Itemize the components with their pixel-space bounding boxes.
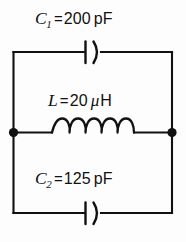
c1-value: 200 bbox=[64, 10, 91, 27]
c1-equals: = bbox=[54, 10, 63, 27]
circuit-schematic-drawing bbox=[0, 0, 186, 242]
c2-symbol: C bbox=[35, 168, 47, 188]
c1-symbol: C bbox=[35, 8, 47, 28]
c1-subscript: 1 bbox=[46, 18, 52, 30]
node-dot-left bbox=[9, 128, 18, 137]
inductor-l-symbol bbox=[52, 119, 134, 133]
label-inductor-l: L=20μH bbox=[48, 92, 112, 110]
capacitor-c1-symbol bbox=[86, 42, 98, 64]
c1-unit: pF bbox=[94, 10, 113, 27]
c2-equals: = bbox=[54, 170, 63, 187]
node-dot-right bbox=[167, 128, 176, 137]
l-equals: = bbox=[60, 92, 69, 109]
l-prefix-mu: μ bbox=[91, 91, 100, 110]
circuit-figure: C1=200pF L=20μH C2=125pF bbox=[0, 0, 186, 242]
capacitor-c2-symbol bbox=[86, 203, 98, 225]
l-value: 20 bbox=[70, 92, 88, 109]
label-capacitor-c2: C2=125pF bbox=[35, 170, 113, 190]
l-unit: H bbox=[100, 92, 112, 109]
c2-unit: pF bbox=[94, 170, 113, 187]
l-symbol: L bbox=[48, 90, 58, 110]
c2-value: 125 bbox=[64, 170, 91, 187]
label-capacitor-c1: C1=200pF bbox=[35, 10, 113, 30]
c2-subscript: 2 bbox=[46, 178, 52, 190]
